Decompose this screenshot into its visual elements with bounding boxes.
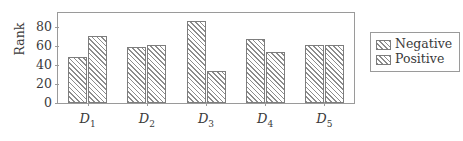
bar-d5-negative [305, 45, 324, 103]
bar-d2-negative [127, 47, 146, 103]
y-tick-label: 20 [36, 78, 52, 91]
chart-legend: Negative Positive [370, 32, 460, 72]
x-tick [206, 102, 207, 106]
y-tick-label: 0 [44, 97, 52, 110]
y-tick-label: 40 [36, 59, 52, 72]
bar-d4-positive [266, 52, 285, 103]
y-tick-label: 60 [36, 40, 52, 53]
y-tick [55, 103, 59, 104]
legend-item-positive: Positive [376, 52, 452, 67]
legend-swatch-positive-icon [376, 55, 391, 65]
x-tick [88, 102, 89, 106]
x-tick-label: D1 [80, 112, 96, 129]
x-tick-label: D4 [257, 112, 273, 129]
bar-d4-negative [246, 39, 265, 103]
bar-d2-positive [147, 45, 166, 103]
bar-d3-positive [207, 71, 226, 103]
legend-swatch-negative-icon [376, 40, 391, 50]
y-axis-title: Rank [12, 2, 28, 76]
y-tick [55, 46, 59, 47]
bar-chart-figure: Rank 020406080D1D2D3D4D5 Negative Positi… [0, 0, 463, 141]
bar-d1-positive [88, 36, 107, 103]
y-tick [55, 84, 59, 85]
x-tick-label: D3 [198, 112, 214, 129]
y-tick [55, 27, 59, 28]
bar-d5-positive [325, 45, 344, 103]
x-tick [324, 102, 325, 106]
legend-label-positive: Positive [395, 53, 444, 66]
y-tick [55, 65, 59, 66]
x-tick-label: D5 [316, 112, 332, 129]
legend-label-negative: Negative [395, 38, 452, 51]
plot-area: 020406080D1D2D3D4D5 [57, 12, 355, 104]
x-tick [147, 102, 148, 106]
legend-item-negative: Negative [376, 37, 452, 52]
bars-layer [58, 13, 354, 103]
bar-d3-negative [187, 21, 206, 103]
y-tick-label: 80 [36, 21, 52, 34]
x-tick [265, 102, 266, 106]
x-tick-label: D2 [139, 112, 155, 129]
bar-d1-negative [68, 57, 87, 103]
